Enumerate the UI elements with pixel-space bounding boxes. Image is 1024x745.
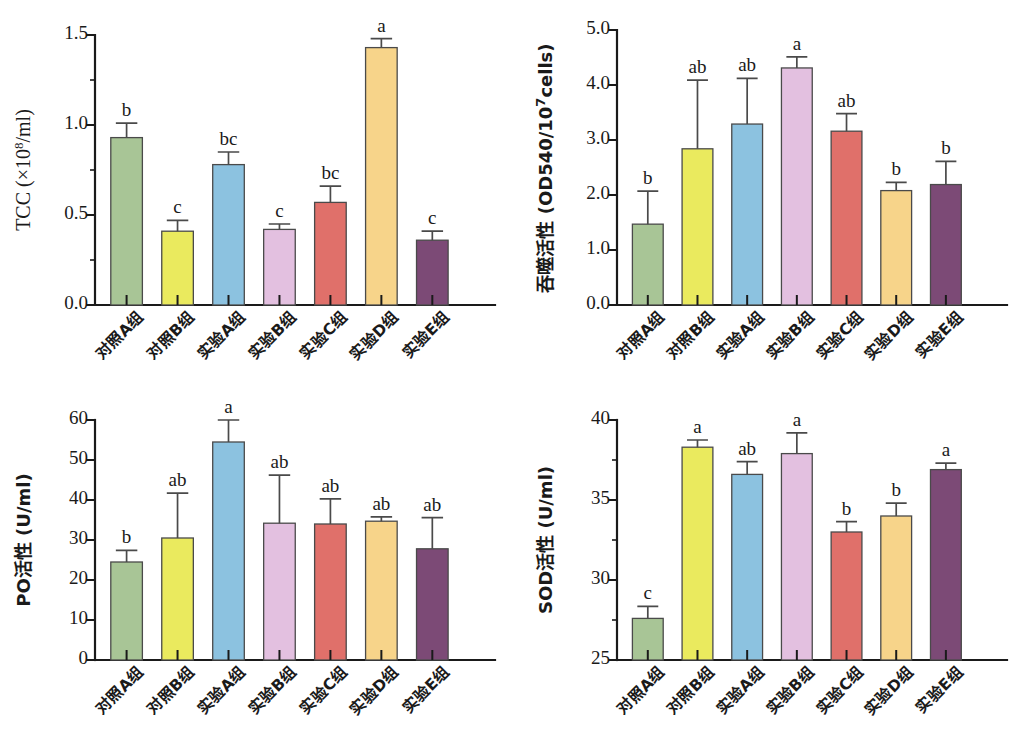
bar-group: a — [366, 15, 398, 305]
x-category-label: 实验D组 — [861, 662, 917, 718]
error-bar — [687, 440, 708, 447]
y-axis-title: 吞噬活性 (OD540/107cells) — [533, 43, 556, 292]
svg-text:TCC (×108/ml): TCC (×108/ml) — [11, 109, 35, 231]
error-bar — [422, 518, 443, 549]
bar — [831, 131, 862, 305]
bar-group: b — [111, 99, 143, 305]
plot-area-po: 0102030405060b对照A组ab对照B组a实验A组ab实验B组ab实验C… — [69, 396, 495, 719]
x-category-label: 实验A组 — [193, 662, 249, 718]
x-category-label: 实验E组 — [398, 662, 453, 717]
y-tick-label: 30 — [591, 567, 610, 588]
bar-group: c — [417, 207, 449, 305]
error-bar — [167, 220, 188, 231]
plot-area-phagocytosis: 0.01.02.03.04.05.0b对照A组ab对照B组ab实验A组a实验B组… — [586, 17, 1007, 364]
y-tick-label: 1.0 — [586, 237, 610, 258]
error-bar — [836, 522, 857, 532]
bar-group: b — [930, 137, 961, 305]
chart-phagocytosis: 0.01.02.03.04.05.0b对照A组ab对照B组ab实验A组a实验B组… — [512, 0, 1024, 385]
significance-letter: b — [842, 498, 852, 519]
significance-letter: ab — [738, 438, 756, 459]
significance-letter: a — [793, 409, 802, 430]
error-bar — [116, 550, 137, 562]
significance-letter: b — [891, 158, 901, 179]
bar-group: ab — [366, 493, 398, 660]
x-category-label: 对照B组 — [143, 662, 199, 718]
x-category-label: 实验D组 — [346, 307, 402, 363]
bar — [930, 185, 961, 305]
bar — [781, 68, 812, 305]
significance-letter: b — [122, 99, 132, 120]
bar-group: a — [213, 396, 245, 660]
y-tick-label: 1.5 — [64, 22, 88, 43]
y-tick-label: 60 — [69, 407, 88, 428]
error-bar — [836, 114, 857, 132]
error-bar — [269, 475, 290, 523]
x-category-label: 实验C组 — [812, 307, 867, 362]
bar-group: ab — [417, 494, 449, 660]
bar — [881, 516, 912, 660]
bar-group: b — [831, 498, 862, 660]
y-tick-label: 1.0 — [64, 112, 88, 133]
significance-letter: a — [693, 416, 702, 437]
error-bar — [218, 420, 239, 442]
bar-group: b — [881, 158, 912, 305]
bar-group: a — [930, 439, 961, 660]
significance-letter: b — [941, 137, 951, 158]
bar — [682, 149, 713, 305]
error-bar — [269, 224, 290, 229]
error-bar — [687, 80, 708, 149]
error-bar — [320, 499, 341, 524]
x-category-label: 实验A组 — [193, 307, 249, 363]
svg-text:吞噬活性 (OD540/107cells): 吞噬活性 (OD540/107cells) — [533, 43, 556, 292]
significance-letter: a — [377, 15, 386, 36]
y-tick-label: 30 — [69, 527, 88, 548]
bar-group: ab — [682, 56, 713, 305]
bar-group: ab — [732, 54, 763, 305]
x-category-label: 实验D组 — [346, 662, 402, 718]
plot-area-sod: 25303540c对照A组a对照B组ab实验A组a实验B组b实验C组b实验D组a… — [591, 407, 1007, 719]
bar — [417, 549, 449, 660]
error-bar — [320, 186, 341, 202]
y-axis-title: TCC (×108/ml) — [11, 109, 35, 231]
y-tick-label: 20 — [69, 567, 88, 588]
significance-letter: b — [122, 526, 132, 547]
error-bar — [637, 191, 658, 224]
significance-letter: c — [173, 196, 181, 217]
significance-letter: ab — [838, 90, 856, 111]
bar — [366, 521, 398, 660]
y-tick-label: 3.0 — [586, 127, 610, 148]
x-category-label: 对照A组 — [613, 662, 669, 718]
error-bar — [371, 39, 392, 48]
y-tick-label: 2.0 — [586, 182, 610, 203]
panel-po: 0102030405060b对照A组ab对照B组a实验A组ab实验B组ab实验C… — [0, 385, 512, 745]
bar — [111, 562, 143, 660]
x-category-label: 实验E组 — [912, 307, 967, 362]
chart-sod: 25303540c对照A组a对照B组ab实验A组a实验B组b实验C组b实验D组a… — [512, 385, 1024, 745]
significance-letter: c — [275, 200, 283, 221]
bar-group: ab — [162, 469, 194, 660]
bar — [111, 138, 143, 305]
bar — [632, 224, 663, 305]
bar-group: b — [881, 479, 912, 660]
bar-group: c — [632, 582, 663, 660]
bar-group: bc — [213, 128, 245, 305]
plot-area-tcc: 0.00.51.01.5b对照A组c对照B组bc实验A组c实验B组bc实验C组a… — [64, 15, 495, 364]
significance-letter: ab — [423, 494, 441, 515]
error-bar — [637, 606, 658, 618]
y-tick-label: 5.0 — [586, 17, 610, 38]
significance-letter: b — [891, 479, 901, 500]
bar — [213, 165, 245, 305]
bar — [831, 532, 862, 660]
bar — [781, 454, 812, 660]
error-bar — [786, 57, 807, 68]
error-bar — [737, 78, 758, 124]
bar — [264, 523, 296, 660]
significance-letter: ab — [738, 54, 756, 75]
error-bar — [737, 462, 758, 475]
bar-group: bc — [315, 162, 347, 305]
bar — [930, 470, 961, 660]
panel-phagocytosis: 0.01.02.03.04.05.0b对照A组ab对照B组ab实验A组a实验B组… — [512, 0, 1024, 385]
y-tick-label: 40 — [69, 487, 88, 508]
bar — [315, 524, 347, 660]
y-tick-label: 35 — [591, 487, 610, 508]
